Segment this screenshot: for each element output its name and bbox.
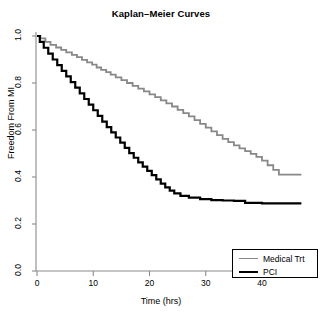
- x-tick-label: 10: [82, 278, 104, 288]
- legend-item: Medical Trt: [233, 253, 319, 266]
- y-tick-label: 1.0: [13, 22, 23, 48]
- chart-container: Kaplan–Meier Curves Freedom From MI Time…: [0, 0, 322, 322]
- y-tick-label: 0.0: [13, 257, 23, 283]
- y-tick-label: 0.6: [13, 116, 23, 142]
- legend-line-swatch: [239, 258, 258, 259]
- legend-label: PCI: [263, 266, 277, 279]
- x-tick-label: 0: [26, 278, 48, 288]
- y-tick-label: 0.4: [13, 163, 23, 189]
- legend-label: Medical Trt: [263, 253, 305, 266]
- series-line-pci: [37, 36, 301, 203]
- series-line-medical-trt: [37, 36, 301, 175]
- x-tick-label: 40: [251, 278, 273, 288]
- x-tick-label: 20: [139, 278, 161, 288]
- y-tick-label: 0.8: [13, 69, 23, 95]
- chart-legend: Medical TrtPCI: [232, 249, 318, 278]
- y-tick-label: 0.2: [13, 210, 23, 236]
- legend-line-swatch: [239, 271, 258, 273]
- legend-item: PCI: [233, 266, 319, 279]
- x-tick-label: 30: [195, 278, 217, 288]
